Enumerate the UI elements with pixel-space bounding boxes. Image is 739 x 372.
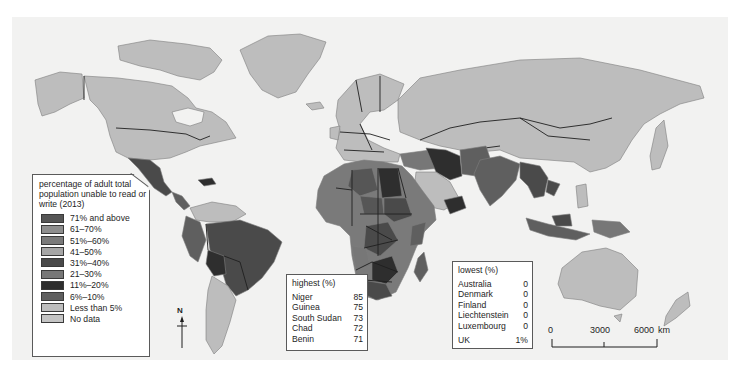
australia (558, 248, 690, 326)
highest-row: Chad72 (287, 323, 367, 333)
legend-item: No data (41, 313, 149, 324)
highest-title: highest (%) (287, 275, 367, 292)
legend-swatch (41, 214, 64, 223)
lowest-row-uk: UK1% (453, 335, 532, 345)
lowest-row: Australia0 (453, 279, 532, 289)
lowest-row: Finland0 (453, 300, 532, 310)
legend-swatch (41, 314, 64, 323)
legend-item: 51%–60% (41, 235, 149, 246)
scale-bar-line (548, 337, 668, 349)
iceland (306, 102, 324, 110)
legend-swatch (41, 292, 64, 301)
legend-item: 71% and above (41, 213, 149, 224)
legend-swatch (41, 303, 64, 312)
legend-swatch (41, 258, 64, 267)
highest-row: Guinea75 (287, 302, 367, 312)
legend-swatch (41, 281, 64, 290)
lowest-title: lowest (%) (453, 262, 532, 279)
highest-row: Benin71 (287, 334, 367, 344)
lowest-row: Luxembourg0 (453, 321, 532, 331)
legend-item: 6%–10% (41, 291, 149, 302)
legend-item: 11%–20% (41, 280, 149, 291)
lowest-box: lowest (%) Australia0 Denmark0 Finland0 … (452, 261, 533, 349)
legend-item: Less than 5% (41, 302, 149, 313)
lowest-row: Denmark0 (453, 289, 532, 299)
south-america (182, 202, 282, 354)
highest-row: Niger85 (287, 292, 367, 302)
highest-row: South Sudan73 (287, 313, 367, 323)
legend-item: 41–50% (41, 246, 149, 257)
legend-item: 31%–40% (41, 257, 149, 268)
north-arrow: N (175, 306, 189, 348)
legend-swatch (41, 247, 64, 256)
legend: percentage of adult total population una… (32, 174, 150, 357)
legend-swatch (41, 225, 64, 234)
legend-item: 21–30% (41, 269, 149, 280)
greenland (240, 34, 326, 98)
legend-item: 61–70% (41, 224, 149, 235)
legend-swatch (41, 236, 64, 245)
legend-title: percentage of adult total population una… (33, 175, 149, 210)
legend-swatch (41, 270, 64, 279)
lowest-row: Liechtenstein0 (453, 310, 532, 320)
highest-box: highest (%) Niger85 Guinea75 South Sudan… (286, 274, 368, 351)
north-america (35, 40, 236, 160)
europe (330, 74, 404, 162)
scale-bar: 0 3000 6000 km (548, 325, 668, 349)
